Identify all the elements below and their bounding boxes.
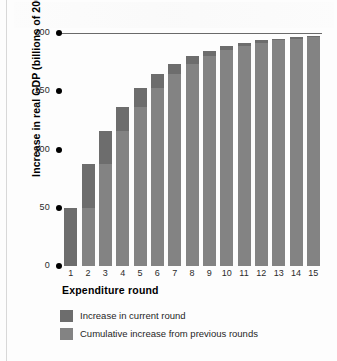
- x-axis-tick-label-2: 2: [82, 268, 95, 278]
- x-axis-tick-label-15: 15: [307, 268, 320, 278]
- bar-round-3: [99, 131, 112, 266]
- legend-swatch-current-round: [60, 310, 73, 322]
- x-axis-tick-label-1: 1: [64, 268, 77, 278]
- bar-round-11: [238, 43, 251, 266]
- x-axis-tick-label-7: 7: [168, 268, 181, 278]
- x-axis-tick-label-9: 9: [203, 268, 216, 278]
- chart-legend: Increase in current round Cumulative inc…: [60, 308, 258, 344]
- bar-round-6: [151, 74, 164, 266]
- bar-segment-previous-rounds: [151, 88, 164, 266]
- bar-round-8: [186, 56, 199, 266]
- bar-segment-previous-rounds: [116, 131, 129, 266]
- legend-label-current-round: Increase in current round: [80, 310, 186, 321]
- legend-label-previous-rounds: Cumulative increase from previous rounds: [80, 328, 258, 339]
- bar-segment-previous-rounds: [203, 56, 216, 266]
- bar-segment-current-round: [255, 40, 268, 42]
- legend-item-current-round: Increase in current round: [60, 308, 258, 323]
- bar-segment-current-round: [272, 39, 285, 41]
- bar-segment-current-round: [168, 64, 181, 74]
- bar-segment-previous-rounds: [307, 37, 320, 266]
- bar-segment-current-round: [186, 56, 199, 64]
- bar-segment-current-round: [290, 37, 303, 38]
- expenditure-multiplier-bar-chart: 050100150200 Increase in real GDP (billi…: [0, 0, 337, 361]
- x-axis-tick-labels: 123456789101112131415: [62, 268, 322, 282]
- x-axis-tick-label-13: 13: [272, 268, 285, 278]
- bar-round-1: [64, 208, 77, 266]
- bar-segment-current-round: [116, 107, 129, 132]
- bar-segment-current-round: [82, 164, 95, 208]
- x-axis-tick-label-8: 8: [186, 268, 199, 278]
- bar-segment-current-round: [134, 88, 147, 106]
- bar-segment-current-round: [99, 131, 112, 164]
- x-axis-tick-label-5: 5: [134, 268, 147, 278]
- bar-segment-previous-rounds: [168, 74, 181, 266]
- bar-segment-previous-rounds: [255, 43, 268, 266]
- x-axis-tick-label-10: 10: [220, 268, 233, 278]
- bar-segment-previous-rounds: [272, 40, 285, 266]
- bar-segment-previous-rounds: [186, 64, 199, 266]
- x-axis-title: Expenditure round: [62, 284, 159, 296]
- bar-segment-previous-rounds: [134, 107, 147, 266]
- bar-segment-current-round: [238, 43, 251, 46]
- bar-segment-current-round: [220, 46, 233, 50]
- bar-round-2: [82, 164, 95, 266]
- y-axis-title: Increase in real GDP (billions of 2002 d…: [30, 0, 42, 182]
- bar-round-9: [203, 50, 216, 266]
- bar-segment-current-round: [151, 74, 164, 88]
- bar-segment-current-round: [203, 51, 216, 57]
- bar-series-group: [62, 33, 322, 266]
- bar-segment-previous-rounds: [99, 164, 112, 266]
- figure-page: 050100150200 Increase in real GDP (billi…: [0, 0, 337, 361]
- bar-round-10: [220, 46, 233, 266]
- x-axis-tick-label-11: 11: [238, 268, 251, 278]
- bar-segment-previous-rounds: [82, 208, 95, 266]
- x-axis-tick-label-12: 12: [255, 268, 268, 278]
- bar-segment-current-round: [64, 208, 77, 266]
- y-axis-tick-label: 50: [40, 202, 50, 212]
- bar-round-15: [307, 36, 320, 266]
- legend-swatch-previous-rounds: [60, 328, 73, 340]
- bar-segment-previous-rounds: [220, 50, 233, 266]
- bar-segment-previous-rounds: [238, 46, 251, 266]
- bar-round-7: [168, 64, 181, 266]
- y-axis-tick-label: 0: [45, 260, 50, 270]
- x-axis-tick-label-4: 4: [116, 268, 129, 278]
- bar-round-4: [116, 107, 129, 266]
- bar-round-14: [290, 37, 303, 266]
- bar-segment-current-round: [307, 36, 320, 37]
- x-axis-tick-label-6: 6: [151, 268, 164, 278]
- bar-round-5: [134, 88, 147, 266]
- bar-segment-previous-rounds: [290, 39, 303, 266]
- bar-round-12: [255, 40, 268, 266]
- x-axis-tick-label-14: 14: [290, 268, 303, 278]
- x-axis-tick-label-3: 3: [99, 268, 112, 278]
- bar-round-13: [272, 39, 285, 266]
- legend-item-previous-rounds: Cumulative increase from previous rounds: [60, 326, 258, 341]
